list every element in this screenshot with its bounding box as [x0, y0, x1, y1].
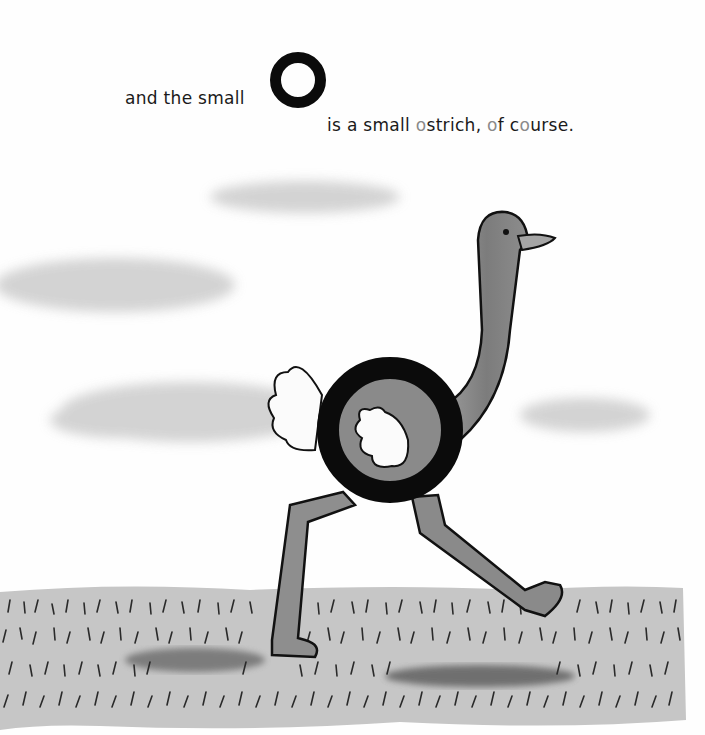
big-letter-o [270, 52, 326, 108]
caption-line-1: and the small [125, 88, 245, 108]
book-page: and the small is a small ostrich, of cou… [0, 0, 705, 735]
caption-line-2: is a small ostrich, of course. [327, 115, 574, 135]
grass-field [0, 586, 686, 730]
illustration [0, 0, 705, 735]
